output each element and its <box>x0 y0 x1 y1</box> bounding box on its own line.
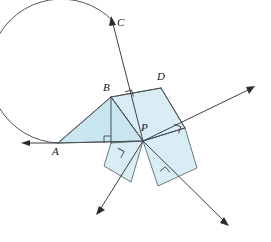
point-label-p: P <box>141 122 148 133</box>
point-label-d: D <box>157 71 165 82</box>
diagram-canvas <box>0 0 271 242</box>
arrowhead-left <box>21 140 30 146</box>
arrowhead-lower-left <box>96 206 105 215</box>
point-label-b: B <box>103 82 110 93</box>
point-label-a: A <box>52 146 59 157</box>
geometry-figure: A B C D P <box>0 0 271 242</box>
point-label-c: C <box>117 17 124 28</box>
arrowhead-up-c <box>109 16 116 26</box>
arrowhead-upper-right <box>246 86 255 94</box>
square-lower-left-of-p <box>104 141 143 182</box>
